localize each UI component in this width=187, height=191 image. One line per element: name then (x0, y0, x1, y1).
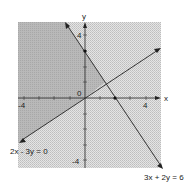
x-tick-label-neg4: -4 (18, 101, 26, 110)
point-x-intercept (113, 96, 116, 99)
y-tick-label-neg4: -4 (72, 157, 80, 166)
y-tick-label-4: 4 (77, 31, 82, 40)
y-axis-label: y (82, 12, 86, 21)
line-label-3x-2y: 3x + 2y = 6 (144, 173, 184, 182)
origin-label: 0 (77, 89, 82, 98)
x-axis-label: x (164, 94, 168, 103)
point-y-intercept (83, 49, 86, 52)
x-tick-label-4: 4 (143, 101, 148, 110)
graph: y x 0 -4 4 4 -4 2x - 3y = 0 3x + 2y = 6 (0, 0, 187, 191)
line-label-2x-3y: 2x - 3y = 0 (10, 147, 48, 156)
